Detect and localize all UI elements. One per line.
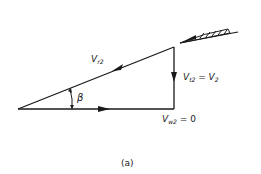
relative-velocity-arrowhead: [112, 64, 123, 71]
whirl-velocity-label: Vw2 = 0: [162, 114, 196, 125]
blade-icon: [180, 29, 238, 43]
tangential-velocity-label: Vt2 = V2: [183, 72, 219, 83]
tangential-velocity-arrowhead: [171, 72, 177, 82]
base-arrowhead: [98, 106, 110, 112]
figure-caption: (a): [121, 158, 134, 168]
velocity-triangle-diagram: Vr2 Vt2 = V2 Vw2 = 0 β (a): [0, 0, 261, 174]
angle-beta-label: β: [76, 92, 84, 103]
relative-velocity-label: Vr2: [91, 54, 104, 65]
